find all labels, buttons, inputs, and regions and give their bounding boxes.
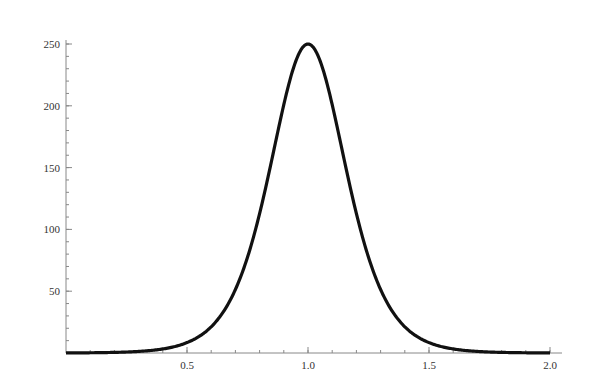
y-tick-label: 50 xyxy=(49,285,61,297)
y-tick-label: 250 xyxy=(44,38,61,50)
line-chart: 0.51.01.52.050100150200250 xyxy=(0,0,593,391)
y-tick-label: 100 xyxy=(44,223,61,235)
x-tick-label: 0.5 xyxy=(180,359,194,371)
x-tick-label: 2.0 xyxy=(543,359,557,371)
x-tick-label: 1.0 xyxy=(301,359,315,371)
y-tick-label: 150 xyxy=(44,162,61,174)
x-tick-label: 1.5 xyxy=(422,359,436,371)
data-curve xyxy=(66,44,550,353)
y-tick-label: 200 xyxy=(44,100,61,112)
axes: 0.51.01.52.050100150200250 xyxy=(44,38,563,371)
